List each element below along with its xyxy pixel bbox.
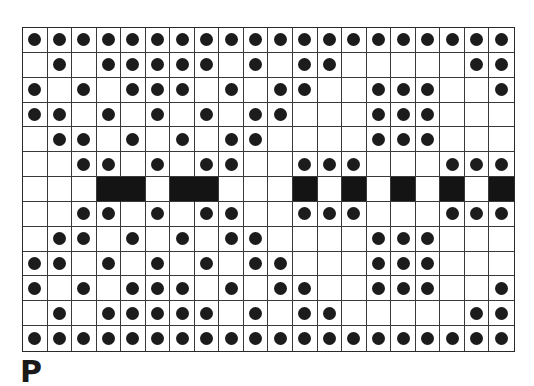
empty-cell [440,53,465,78]
dot-icon [446,332,459,345]
dot-cell [219,78,244,103]
dot-cell [146,78,171,103]
dot-cell [97,53,122,78]
empty-cell [23,53,48,78]
dot-icon [151,58,164,71]
dot-pattern-grid [22,27,515,352]
dot-icon [225,83,238,96]
empty-cell [48,152,73,177]
dot-icon [372,33,385,46]
dot-icon [298,307,311,320]
empty-cell [391,301,416,326]
empty-cell [268,301,293,326]
dot-icon [176,232,189,245]
dot-cell [268,326,293,351]
dot-cell [195,252,220,277]
empty-cell [97,227,122,252]
dot-icon [53,108,66,121]
empty-cell [440,127,465,152]
dot-icon [28,282,41,295]
empty-cell [489,252,514,277]
dot-cell [465,152,490,177]
dot-icon [28,33,41,46]
dot-icon [372,108,385,121]
empty-cell [440,103,465,128]
empty-cell [170,152,195,177]
empty-cell [195,78,220,103]
dot-cell [72,326,97,351]
dot-cell [440,202,465,227]
dot-cell [97,202,122,227]
dot-cell [489,152,514,177]
empty-cell [416,177,441,202]
empty-cell [121,152,146,177]
dot-cell [268,103,293,128]
dot-cell [367,227,392,252]
empty-cell [318,78,343,103]
dot-icon [274,83,287,96]
dot-icon [102,332,115,345]
dot-cell [391,252,416,277]
dot-icon [77,33,90,46]
empty-cell [170,202,195,227]
empty-cell [465,252,490,277]
empty-cell [23,152,48,177]
dot-cell [318,326,343,351]
dot-icon [298,207,311,220]
dot-cell [391,227,416,252]
dot-cell [121,53,146,78]
dot-cell [342,28,367,53]
dot-cell [293,53,318,78]
dot-icon [200,257,213,270]
dot-icon [53,232,66,245]
empty-cell [268,227,293,252]
dot-cell [146,252,171,277]
dot-icon [372,133,385,146]
empty-cell [318,227,343,252]
empty-cell [342,127,367,152]
dot-icon [298,83,311,96]
dot-cell [195,326,220,351]
dot-cell [268,78,293,103]
dot-icon [102,33,115,46]
empty-cell [440,252,465,277]
dot-cell [293,202,318,227]
empty-cell [318,252,343,277]
dot-icon [470,58,483,71]
black-block-cell [195,177,220,202]
dot-cell [121,78,146,103]
dot-icon [151,83,164,96]
dot-cell [244,301,269,326]
dot-cell [146,301,171,326]
dot-icon [347,207,360,220]
empty-cell [268,152,293,177]
empty-cell [465,103,490,128]
dot-cell [318,301,343,326]
empty-cell [440,301,465,326]
dot-icon [397,332,410,345]
dot-cell [268,28,293,53]
empty-cell [219,103,244,128]
dot-icon [53,332,66,345]
dot-cell [244,28,269,53]
empty-cell [318,276,343,301]
dot-cell [293,152,318,177]
empty-cell [489,103,514,128]
dot-icon [470,332,483,345]
dot-icon [151,33,164,46]
dot-cell [416,78,441,103]
dot-cell [72,276,97,301]
empty-cell [440,276,465,301]
dot-cell [219,227,244,252]
dot-icon [397,232,410,245]
dot-cell [391,276,416,301]
dot-icon [446,158,459,171]
dot-icon [372,282,385,295]
dot-cell [318,53,343,78]
dot-cell [23,28,48,53]
dot-cell [293,78,318,103]
black-block-cell [121,177,146,202]
dot-cell [72,227,97,252]
dot-cell [489,276,514,301]
dot-icon [421,332,434,345]
